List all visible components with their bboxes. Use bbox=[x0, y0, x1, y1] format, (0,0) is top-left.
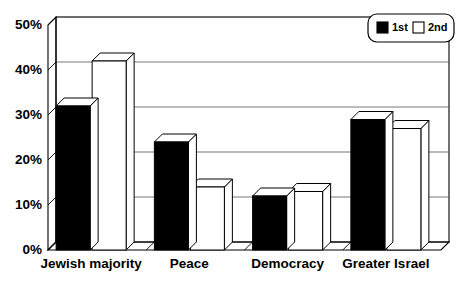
y-tick-label: 40% bbox=[15, 62, 42, 77]
bar-greater-israel-1st bbox=[351, 112, 393, 251]
legend-swatch-white bbox=[413, 22, 424, 33]
chart-container: 0%10%20%30%40%50% Jewish majorityPeaceDe… bbox=[0, 0, 463, 283]
bar-side-face bbox=[90, 98, 98, 250]
bar-front-face bbox=[253, 196, 287, 250]
y-tick-label: 0% bbox=[22, 242, 42, 257]
bar-top-face bbox=[56, 98, 98, 106]
bar-top-face bbox=[92, 53, 134, 61]
legend-swatch-black bbox=[377, 22, 388, 33]
y-tick-label: 10% bbox=[15, 197, 42, 212]
category-label-greater-israel: Greater Israel bbox=[342, 256, 429, 271]
bar-side-face bbox=[188, 134, 196, 250]
bar-side-face bbox=[323, 184, 331, 251]
bar-top-face bbox=[154, 134, 196, 142]
bar-peace-1st bbox=[154, 134, 196, 250]
category-label-peace: Peace bbox=[170, 256, 210, 271]
bar-front-face bbox=[351, 120, 385, 251]
bar-top-face bbox=[253, 188, 295, 196]
bar-side-face bbox=[224, 179, 232, 250]
bar-side-face bbox=[385, 112, 393, 251]
legend-label-2nd: 2nd bbox=[428, 21, 448, 33]
category-label-jewish-majority: Jewish majority bbox=[40, 256, 142, 271]
bar-front-face bbox=[154, 142, 188, 250]
bar-side-face bbox=[287, 188, 295, 250]
legend-label-1st: 1st bbox=[392, 21, 408, 33]
bar-jewish-majority-1st bbox=[56, 98, 98, 250]
bar-side-face bbox=[421, 121, 429, 251]
chart-legend[interactable]: 1st 2nd bbox=[368, 14, 454, 42]
bar-democracy-1st bbox=[253, 188, 295, 250]
category-label-democracy: Democracy bbox=[251, 256, 324, 271]
bar-top-face bbox=[351, 112, 393, 120]
y-tick-label: 30% bbox=[15, 107, 42, 122]
y-tick-label: 50% bbox=[15, 17, 42, 32]
bar-front-face bbox=[56, 106, 90, 250]
bar-side-face bbox=[126, 53, 134, 250]
y-tick-label: 20% bbox=[15, 152, 42, 167]
bar-chart-3d: 0%10%20%30%40%50% Jewish majorityPeaceDe… bbox=[0, 0, 463, 283]
